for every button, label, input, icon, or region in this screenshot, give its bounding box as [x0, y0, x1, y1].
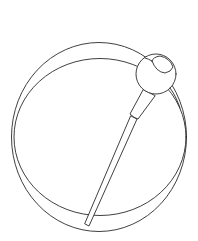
pin-collar — [130, 90, 155, 119]
brooch-drawing — [0, 0, 198, 241]
brooch-illustration: Penannular brooch line drawing — [0, 0, 198, 241]
pin-shaft — [85, 116, 137, 226]
